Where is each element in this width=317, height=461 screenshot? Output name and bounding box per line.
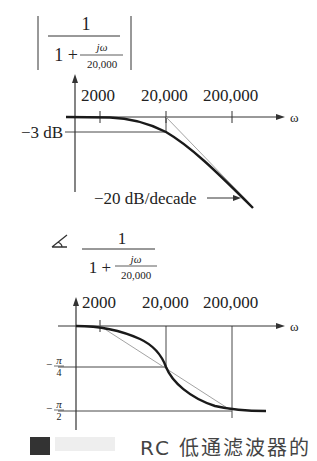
label-minus-pi-over-4: − π 4 [46, 354, 64, 378]
svg-text:4: 4 [57, 367, 62, 378]
phase-formula-denominator-prefix: 1 + [89, 258, 111, 277]
label-minus-pi-over-2: − π 2 [46, 398, 64, 422]
mag-tick-200000: 200,000 [203, 86, 258, 105]
formula-numerator: 1 [82, 14, 91, 34]
formula-inner-numerator: jω [95, 41, 108, 53]
svg-text:−: − [46, 358, 52, 370]
phase-formula-inner-numerator: jω [129, 253, 142, 265]
phase-tick-20000: 20,000 [142, 293, 189, 312]
formula-denominator-prefix: 1 + [54, 45, 78, 65]
phase-tick-200000: 200,000 [203, 293, 258, 312]
phase-tick-2000: 2000 [82, 293, 116, 312]
phase-formula-inner-denominator: 20,000 [121, 269, 152, 281]
magnitude-curves: −20 dB/decade [66, 117, 253, 208]
phase-asymptote [76, 326, 232, 411]
phase-y-axis-arrow-icon [73, 297, 79, 306]
caption-figure-marker [30, 437, 50, 455]
angle-icon [52, 235, 67, 247]
svg-text:π: π [56, 354, 62, 366]
mag-3db-label: −3 dB [21, 123, 63, 142]
x-axis-arrow-icon [276, 114, 285, 120]
phase-axes: 2000 20,000 200,000 ω − π 4 − π 2 [46, 293, 299, 430]
y-axis-arrow-icon [72, 74, 78, 83]
svg-text:π: π [56, 398, 62, 410]
magnitude-axes: 2000 20,000 200,000 ω −3 dB [21, 74, 299, 192]
phase-x-axis-arrow-icon [276, 323, 285, 329]
phase-formula-numerator: 1 [118, 229, 127, 248]
caption-blurred-label [55, 437, 115, 451]
phase-formula: 1 1 + jω 20,000 [52, 229, 157, 281]
phase-curve [76, 326, 266, 411]
caption-text: RC 低通滤波器的 [140, 432, 311, 461]
formula-inner-denominator: 20,000 [87, 58, 118, 70]
phase-curves [76, 326, 266, 411]
mag-tick-20000: 20,000 [141, 86, 188, 105]
svg-text:−: − [46, 402, 52, 414]
svg-text:2: 2 [57, 411, 62, 422]
mag-x-axis-label: ω [290, 110, 299, 125]
phase-x-axis-label: ω [290, 319, 299, 334]
mag-tick-2000: 2000 [81, 86, 115, 105]
magnitude-formula: 1 1 + jω 20,000 [38, 14, 131, 70]
slope-annotation: −20 dB/decade [94, 189, 197, 208]
